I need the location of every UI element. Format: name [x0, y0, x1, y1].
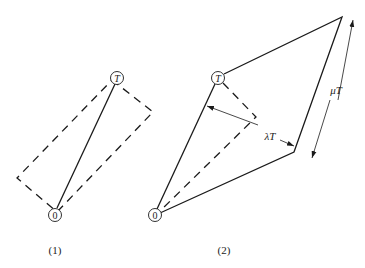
figure-1: T 0 (1)	[17, 72, 153, 258]
mu-dimension-arrow-down	[312, 100, 330, 158]
figure-2-caption: (2)	[218, 244, 231, 257]
target-node: T	[111, 72, 124, 85]
lambda-t-label: λT	[264, 130, 277, 142]
lambda-dimension-arrow-right	[280, 140, 294, 146]
left-edge-line	[157, 84, 215, 209]
dashed-rectangle	[17, 80, 153, 212]
origin-label: 0	[53, 210, 58, 221]
origin-node: 0	[49, 209, 62, 222]
figure-1-caption: (1)	[49, 244, 62, 257]
figure-2: λT μT T 0 (2)	[149, 17, 354, 257]
origin-node: 0	[149, 209, 162, 222]
lambda-dimension-arrow	[207, 106, 258, 125]
origin-label: 0	[153, 210, 158, 221]
mu-t-label: μT	[329, 84, 343, 96]
solid-path-line	[57, 84, 115, 208]
dashed-rectangle	[159, 83, 256, 212]
diagram-canvas: T 0 (1) λT μT T 0 (2)	[0, 0, 365, 268]
target-node: T	[212, 72, 225, 85]
